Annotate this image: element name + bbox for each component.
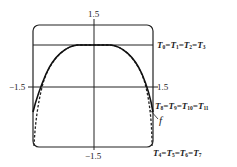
f-curve — [33, 45, 153, 112]
plot-frame — [33, 25, 153, 147]
label-f: f — [159, 114, 162, 126]
label-t4-t7: T4=T5=T6=T7 — [153, 148, 201, 160]
label-t8-t11: T8=T9=T10=T11 — [155, 101, 209, 113]
taylor-polynomial-figure: 1.5 −1.5 −1.5 1.5 T0=T1=T2=T3 T8=T9=T10=… — [0, 0, 237, 167]
y-top-tick-label: 1.5 — [88, 10, 99, 19]
plot-area — [0, 0, 237, 167]
y-bottom-tick-label: −1.5 — [85, 152, 101, 161]
x-left-tick-label: −1.5 — [9, 83, 25, 92]
x-right-tick-label: 1.5 — [157, 83, 168, 92]
label-t0-t3: T0=T1=T2=T3 — [157, 40, 205, 52]
